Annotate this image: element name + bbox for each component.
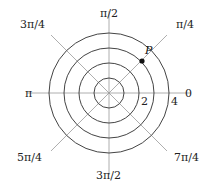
- angle-label: 0: [185, 87, 192, 100]
- radius-labels: 24: [140, 95, 179, 108]
- angle-label: π: [25, 87, 32, 100]
- radius-label: 4: [171, 95, 178, 108]
- angle-label: 7π/4: [174, 151, 199, 164]
- angle-rays: [27, 11, 191, 175]
- angle-label: 3π/2: [96, 169, 121, 182]
- point-p: P: [139, 44, 153, 64]
- angle-label: π/2: [100, 7, 118, 20]
- point-marker: [139, 58, 144, 63]
- polar-diagram: 0π/4π/23π/4π5π/43π/27π/4 24 P: [0, 0, 211, 195]
- angle-label: π/4: [176, 18, 194, 31]
- point-label: P: [144, 44, 153, 57]
- angle-label: 3π/4: [20, 18, 45, 31]
- angle-label: 5π/4: [17, 151, 42, 164]
- radius-label: 2: [141, 95, 148, 108]
